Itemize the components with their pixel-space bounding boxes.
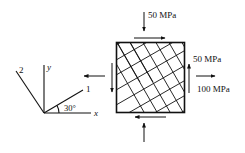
x-axis-label: x [93,108,98,118]
fiber-hatching [90,0,243,153]
coordinate-axes [16,65,91,113]
axis-1-label: 1 [86,84,91,94]
angle-label: 30° [64,103,76,113]
top-normal-label: 50 MPa [148,10,176,20]
y-axis-label: y [46,62,51,72]
shear-label: 50 MPa [193,54,221,64]
axis-2-label: 2 [19,65,24,75]
stress-element-diagram: x y 1 2 30° [0,0,245,153]
right-normal-label: 100 MPa [197,84,230,94]
angle-arc [57,106,59,114]
axis-2-line [16,71,44,113]
